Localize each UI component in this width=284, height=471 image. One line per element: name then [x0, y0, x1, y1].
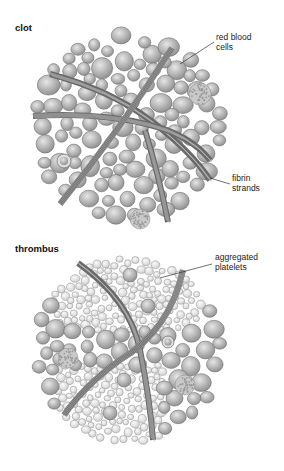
- fibrin-strands-label-line1: fibrin: [232, 173, 260, 183]
- aggregated-platelets-label-line1: aggregated: [215, 252, 258, 262]
- aggregated-platelets-label-line2: platelets: [215, 262, 258, 272]
- red-blood-cells-label: red blood cells: [216, 32, 251, 52]
- fibrin-strands-label-line2: strands: [232, 183, 260, 193]
- fibrin-strands-label: fibrin strands: [232, 173, 260, 193]
- thrombus-panel: thrombus aggregated platelets: [0, 230, 284, 471]
- clot-panel: clot red blood cells fibrin strands: [0, 0, 284, 240]
- red-blood-cells-label-line1: red blood: [216, 32, 251, 42]
- red-blood-cells-label-line2: cells: [216, 42, 251, 52]
- aggregated-platelets-label: aggregated platelets: [215, 252, 258, 272]
